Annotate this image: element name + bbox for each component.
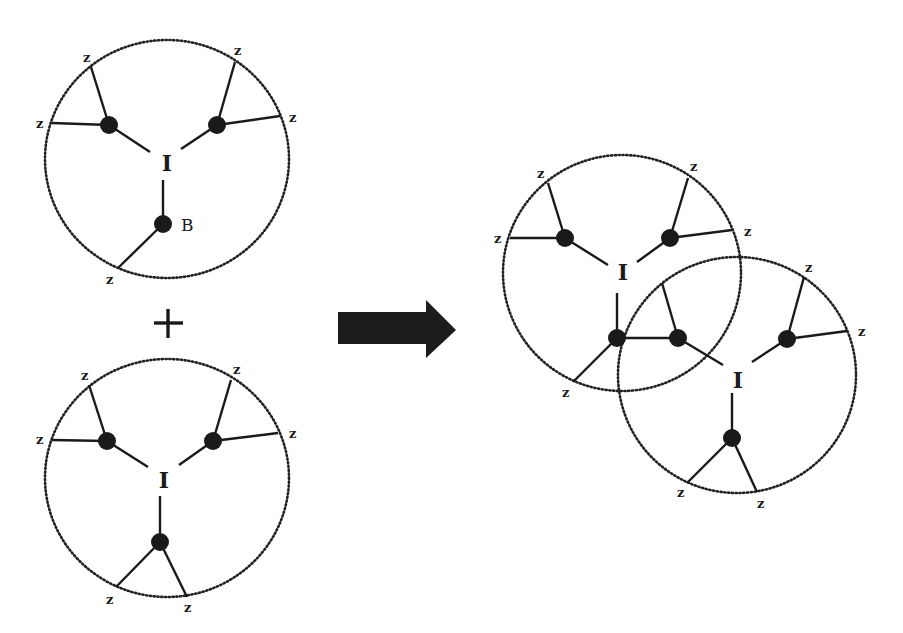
end-label: z: [36, 432, 43, 447]
end-label: z: [494, 231, 501, 246]
core-label: I: [733, 367, 743, 393]
arm-node-b: [154, 215, 172, 233]
end-label: z: [690, 159, 697, 174]
arm-node: [151, 533, 169, 551]
plus-icon: [154, 309, 183, 338]
end-label: z: [537, 166, 544, 181]
reaction-diagram: I B z z z z z I z z z z z z: [0, 0, 903, 633]
reactant-1: I B z z z z z: [36, 40, 296, 287]
end-label: z: [36, 116, 43, 131]
reactant-2: I z z z z z z: [36, 359, 296, 615]
end-label: z: [805, 260, 812, 275]
end-label: z: [744, 224, 751, 239]
end-label: z: [858, 324, 865, 339]
arm-node: [204, 432, 222, 450]
end-label: z: [233, 362, 240, 377]
node-b-label: B: [181, 215, 194, 235]
end-label: z: [677, 485, 684, 500]
linking-node: [608, 329, 626, 347]
right-arrow-icon: [338, 300, 456, 358]
arm-node: [661, 229, 679, 247]
end-label: z: [234, 43, 241, 58]
end-label: z: [289, 110, 296, 125]
arm-node: [669, 329, 687, 347]
end-label: z: [83, 50, 90, 65]
arm-node: [556, 229, 574, 247]
core-label: I: [618, 259, 628, 285]
arm-node: [98, 432, 116, 450]
end-label: z: [106, 272, 113, 287]
end-label: z: [106, 592, 113, 607]
core-label: I: [159, 467, 169, 493]
arm-node: [100, 116, 118, 134]
end-label: z: [184, 600, 191, 615]
core-label: I: [162, 150, 172, 176]
product: I I z z z z z z z z z: [494, 155, 865, 511]
arm-node: [208, 116, 226, 134]
arm-node: [723, 429, 741, 447]
end-label: z: [757, 496, 764, 511]
end-label: z: [562, 385, 569, 400]
end-label: z: [289, 426, 296, 441]
arm-node: [778, 330, 796, 348]
end-label: z: [81, 368, 88, 383]
